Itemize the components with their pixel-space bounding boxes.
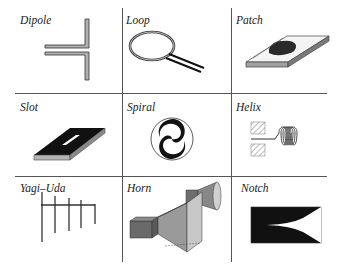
helix-antenna-icon xyxy=(231,93,338,176)
cell-patch: Patch xyxy=(231,0,338,93)
yagi-uda-antenna-icon xyxy=(0,176,122,270)
horn-antenna-icon xyxy=(122,176,231,270)
cell-slot: Slot xyxy=(0,93,122,176)
spiral-antenna-icon xyxy=(122,93,231,176)
cell-yagi-uda: Yagi–Uda xyxy=(0,176,122,270)
patch-antenna-icon xyxy=(231,0,338,93)
cell-horn: Horn xyxy=(122,176,231,270)
cell-helix: Helix xyxy=(231,93,338,176)
notch-antenna-icon xyxy=(231,176,338,270)
slot-antenna-icon xyxy=(0,93,122,176)
dipole-antenna-icon xyxy=(0,0,122,93)
cell-dipole: Dipole xyxy=(0,0,122,93)
cell-loop: Loop xyxy=(122,0,231,93)
cell-spiral: Spiral xyxy=(122,93,231,176)
cell-notch: Notch xyxy=(231,176,338,270)
loop-antenna-icon xyxy=(122,0,231,93)
